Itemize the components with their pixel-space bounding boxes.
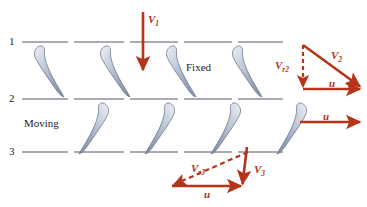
station-label-2: 2: [9, 93, 15, 104]
fixed-blade-row: [34, 46, 262, 97]
moving-blade: [145, 103, 175, 154]
velocity-triangle-diagram: 1 2 3 Fixed Moving V1 Vr2 V2 u u Vr3 V3 …: [0, 0, 367, 207]
moving-blade: [79, 103, 109, 154]
u-middle-label: u: [323, 111, 329, 122]
v1-label-subscript: 1: [155, 19, 159, 28]
u-lower-label: u: [204, 189, 210, 200]
u-upper-label: u: [329, 78, 335, 89]
moving-blade: [277, 103, 307, 154]
v1-label: V1: [148, 14, 159, 28]
fixed-blade: [34, 46, 64, 97]
vr3-relative-velocity-arrow: [174, 152, 248, 185]
v3-label: V3: [254, 164, 265, 178]
moving-row-label: Moving: [24, 118, 59, 129]
v2-label: V2: [331, 50, 342, 64]
station-label-3: 3: [9, 146, 15, 157]
fixed-row-label: Fixed: [186, 62, 211, 73]
moving-blade: [211, 103, 241, 154]
diagram-canvas: [0, 0, 367, 207]
vr2-label: Vr2: [275, 60, 289, 74]
v2-label-subscript: 2: [338, 55, 342, 64]
station-label-1: 1: [9, 36, 15, 47]
fixed-blade: [100, 46, 130, 97]
vr2-label-subscript: r2: [282, 65, 289, 74]
moving-blade-row: [79, 103, 307, 154]
vr3-label: Vr3: [191, 163, 205, 177]
vr3-label-subscript: r3: [198, 168, 205, 177]
fixed-blade: [232, 46, 262, 97]
v3-label-subscript: 3: [261, 169, 265, 178]
